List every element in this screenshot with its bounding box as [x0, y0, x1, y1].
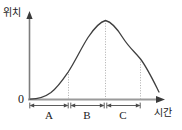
y-axis-arrowhead [26, 11, 32, 19]
interval-label-c: C [119, 110, 126, 121]
interval-arrow-a [30, 103, 69, 109]
interval-label-a: A [45, 110, 53, 121]
x-axis-label: 시간 [154, 108, 172, 118]
x-axis-arrowhead [156, 96, 165, 103]
interval-arrow-c [107, 103, 141, 109]
position-time-graph-figure: 0 위치 시간 A B C [0, 0, 182, 130]
position-curve [30, 21, 159, 100]
interval-label-b: B [83, 110, 90, 121]
interval-arrow-b [71, 103, 105, 109]
origin-label: 0 [18, 93, 24, 105]
y-axis-label: 위치 [3, 8, 21, 18]
